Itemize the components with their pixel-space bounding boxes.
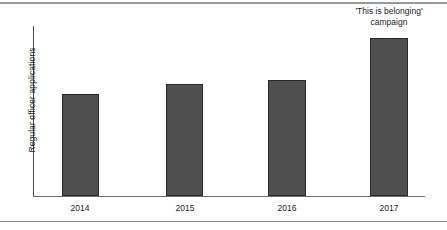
chart-figure: Regular officer applications 2014 2015 2…: [0, 0, 447, 230]
bar-2017[interactable]: [370, 38, 408, 196]
campaign-annotation: 'This is belonging' campaign: [337, 6, 441, 28]
plot-area: Regular officer applications 2014 2015 2…: [0, 0, 447, 230]
x-tick-label-2014: 2014: [50, 203, 110, 213]
y-axis-title: Regular officer applications: [27, 20, 37, 180]
x-tick-label-2017: 2017: [359, 203, 419, 213]
annotation-line-1: 'This is belonging': [337, 6, 441, 17]
annotation-line-2: campaign: [337, 17, 441, 28]
x-axis-line: [33, 196, 425, 197]
x-tick-label-2015: 2015: [155, 203, 215, 213]
bar-2014[interactable]: [62, 94, 99, 196]
bar-2015[interactable]: [166, 84, 203, 196]
bar-2016[interactable]: [268, 80, 306, 196]
x-tick-label-2016: 2016: [257, 203, 317, 213]
